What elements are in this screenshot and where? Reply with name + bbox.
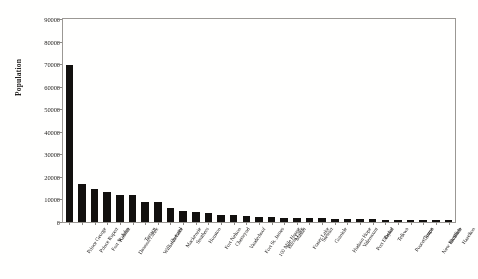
y-axis-tick-label: 50000 [0, 106, 60, 113]
bar-item [379, 19, 392, 222]
bar-item [151, 19, 164, 222]
y-axis-tick-label: 40000 [0, 128, 60, 135]
y-axis-tick-mark [58, 109, 62, 110]
bar-item [303, 19, 316, 222]
x-axis-tick-mark [196, 222, 197, 225]
bar [91, 189, 99, 222]
bar [103, 192, 111, 222]
bar-item [189, 19, 202, 222]
x-axis-tick-mark [284, 222, 285, 225]
y-axis-tick-mark [58, 199, 62, 200]
x-axis-tick-label: Granisle [333, 226, 348, 244]
bar [78, 184, 86, 222]
x-axis-tick-mark [347, 222, 348, 225]
bar-item [240, 19, 253, 222]
bar-item [341, 19, 354, 222]
bar [66, 65, 74, 222]
y-axis-tick-mark [58, 19, 62, 20]
bar-item [253, 19, 266, 222]
bar-item [354, 19, 367, 222]
x-axis-tick-mark [246, 222, 247, 225]
x-axis-tick-mark [309, 222, 310, 225]
x-axis-tick-mark [158, 222, 159, 225]
bar-series [63, 19, 455, 222]
bar-item [164, 19, 177, 222]
y-axis-tick-label: 70000 [0, 61, 60, 68]
x-axis-tick-mark [170, 222, 171, 225]
bar-item [328, 19, 341, 222]
bar-item [88, 19, 101, 222]
x-axis-tick-mark [449, 222, 450, 225]
bar-item [404, 19, 417, 222]
y-axis-tick-mark [58, 222, 62, 223]
x-axis-tick-mark [259, 222, 260, 225]
x-axis-tick-mark [423, 222, 424, 225]
x-axis-category-labels: Prince GeorgePrince RupertFort St. JohnK… [63, 226, 455, 279]
y-axis-tick-mark [58, 64, 62, 65]
y-axis-tick-label: 80000 [0, 38, 60, 45]
y-axis-tick-mark [58, 177, 62, 178]
x-axis-tick-mark [297, 222, 298, 225]
bar [141, 202, 149, 222]
population-bar-chart-figure: Population Prince GeorgePrince RupertFor… [0, 0, 478, 279]
x-axis-tick-mark [183, 222, 184, 225]
bar [217, 215, 225, 222]
bar [116, 195, 124, 222]
x-axis-tick-mark [385, 222, 386, 225]
bar-item [177, 19, 190, 222]
x-axis-tick-mark [373, 222, 374, 225]
x-axis-tick-mark [120, 222, 121, 225]
bar [192, 212, 200, 222]
bar [167, 208, 175, 222]
y-axis-tick-label: 60000 [0, 83, 60, 90]
x-axis-tick-mark [145, 222, 146, 225]
bar-item [139, 19, 152, 222]
bar-item [126, 19, 139, 222]
bar-item [215, 19, 228, 222]
bar-item [114, 19, 127, 222]
bar-item [442, 19, 455, 222]
y-axis-tick-label: 10000 [0, 196, 60, 203]
x-axis-tick-mark [398, 222, 399, 225]
y-axis-tick-mark [58, 154, 62, 155]
bar [179, 211, 187, 223]
x-axis-tick-mark [322, 222, 323, 225]
bar [129, 195, 137, 222]
x-axis-tick-mark [133, 222, 134, 225]
x-axis-tick-mark [82, 222, 83, 225]
x-axis-tick-label: Taylor [382, 226, 395, 241]
x-axis-tick-mark [360, 222, 361, 225]
bar-item [392, 19, 405, 222]
x-axis-tick-mark [436, 222, 437, 225]
x-axis-tick-mark [335, 222, 336, 225]
y-axis-tick-label: 30000 [0, 151, 60, 158]
y-axis-tick-label: 90000 [0, 16, 60, 23]
bar-item [366, 19, 379, 222]
x-axis-tick-mark [234, 222, 235, 225]
x-axis-tick-mark [69, 222, 70, 225]
bar-item [101, 19, 114, 222]
x-axis-tick-mark [107, 222, 108, 225]
bar-item [265, 19, 278, 222]
y-axis-tick-mark [58, 87, 62, 88]
x-axis-tick-mark [208, 222, 209, 225]
x-axis-tick-mark [411, 222, 412, 225]
x-axis-tick-label: Clinton [421, 226, 435, 242]
bar-item [316, 19, 329, 222]
bar [205, 213, 213, 222]
bar-item [417, 19, 430, 222]
bar-item [202, 19, 215, 222]
bar-item [278, 19, 291, 222]
y-axis-tick-label: 0 [0, 219, 60, 226]
y-axis-tick-mark [58, 132, 62, 133]
bar-item [430, 19, 443, 222]
y-axis-tick-label: 20000 [0, 173, 60, 180]
x-axis-tick-label: Telkwa [395, 226, 409, 242]
bar-item [76, 19, 89, 222]
bar-item [227, 19, 240, 222]
bar-item [291, 19, 304, 222]
bar [154, 202, 162, 222]
y-axis-tick-mark [58, 42, 62, 43]
bar-item [63, 19, 76, 222]
x-axis-tick-mark [95, 222, 96, 225]
